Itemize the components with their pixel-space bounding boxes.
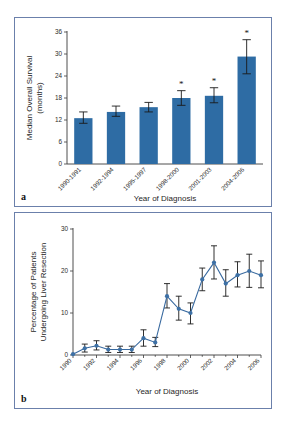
y-tick-label-b: 10 — [61, 309, 69, 316]
significance-star-2001-2003: * — [212, 76, 217, 86]
data-point-b-1996 — [141, 336, 145, 340]
x-tick-label-b-2000: 2000 — [176, 356, 191, 371]
data-point-b-1994 — [118, 347, 122, 351]
data-point-b-2003 — [224, 282, 228, 286]
panel-a-plot: 0612182430361990-19911992-19941995-1997*… — [15, 18, 273, 208]
y-tick-label-a: 0 — [58, 160, 62, 167]
panel-b-plot: 0102030199019921994199619982000200220042… — [15, 213, 273, 410]
y-tick-label-a: 6 — [58, 138, 62, 145]
data-point-b-2001 — [200, 277, 204, 281]
x-tick-label-b-1996: 1996 — [129, 356, 144, 371]
y-axis-title-b: Percentage of PatientsUndergoing Liver R… — [29, 243, 48, 342]
data-point-b-1993 — [106, 347, 110, 351]
x-tick-label-b-2006: 2006 — [246, 356, 261, 371]
x-tick-label-b-1992: 1992 — [82, 356, 97, 371]
bar-1990-1991 — [74, 118, 92, 164]
x-category-label-2004-2006: 2004-2006 — [219, 165, 245, 191]
significance-star-2004-2006: * — [244, 28, 249, 38]
data-point-b-1999 — [177, 307, 181, 311]
x-category-label-1990-1991: 1990-1991 — [56, 165, 82, 191]
y-tick-label-b: 20 — [61, 267, 69, 274]
significance-star-1998-2000: * — [179, 79, 184, 89]
x-axis-title-a: Year of Diagnosis — [134, 194, 196, 203]
bar-1995-1997 — [140, 107, 158, 164]
y-tick-label-a: 36 — [55, 28, 63, 35]
data-point-b-1992 — [94, 344, 98, 348]
x-category-label-1995-1997: 1995-1997 — [121, 165, 147, 191]
y-axis-title-b-line2: Undergoing Liver Resection — [39, 243, 48, 342]
data-point-b-1991 — [83, 346, 87, 350]
bar-1992-1994 — [107, 112, 125, 164]
y-tick-label-a: 18 — [55, 94, 63, 101]
x-tick-label-b-1994: 1994 — [105, 356, 120, 371]
x-axis-title-b: Year of Diagnosis — [136, 387, 198, 396]
x-category-label-1998-2000: 1998-2000 — [154, 165, 180, 191]
y-tick-label-a: 30 — [55, 50, 63, 57]
y-axis-title-a: Median Overall Survival(months) — [25, 56, 44, 141]
data-point-b-1990 — [71, 352, 75, 356]
data-point-b-2006 — [259, 273, 263, 277]
data-point-b-2000 — [188, 311, 192, 315]
bar-1998-2000 — [172, 98, 190, 164]
y-tick-label-b: 30 — [61, 225, 69, 232]
data-point-b-2004 — [235, 273, 239, 277]
data-point-b-1997 — [153, 340, 157, 344]
x-category-label-2001-2003: 2001-2003 — [187, 165, 213, 191]
figure-container: a 0612182430361990-19911992-19941995-199… — [0, 0, 286, 424]
x-category-label-1992-1994: 1992-1994 — [89, 165, 115, 191]
panel-a-bar-chart: a 0612182430361990-19911992-19941995-199… — [14, 17, 272, 207]
data-point-b-2002 — [212, 261, 216, 265]
data-point-b-1995 — [130, 347, 134, 351]
x-tick-label-b-2004: 2004 — [223, 356, 238, 371]
panel-b-line-chart: b 01020301990199219941996199820002002200… — [14, 212, 272, 409]
y-axis-title-a-line1: Median Overall Survival — [25, 56, 34, 141]
data-point-b-1998 — [165, 294, 169, 298]
bar-2001-2003 — [205, 96, 223, 164]
y-tick-label-a: 12 — [55, 116, 63, 123]
y-tick-label-a: 24 — [55, 72, 63, 79]
y-axis-title-a-line2: (months) — [35, 82, 44, 114]
x-tick-label-b-1990: 1990 — [58, 356, 73, 371]
x-tick-label-b-1998: 1998 — [152, 356, 167, 371]
x-tick-label-b-2002: 2002 — [199, 356, 214, 371]
data-point-b-2005 — [247, 269, 251, 273]
y-axis-title-b-line1: Percentage of Patients — [29, 252, 38, 333]
